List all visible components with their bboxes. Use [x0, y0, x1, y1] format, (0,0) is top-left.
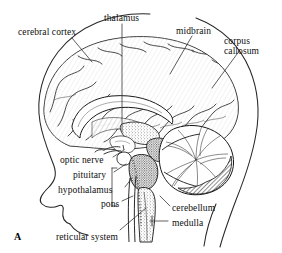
label-cerebellum: cerebellum — [172, 203, 215, 214]
spinal-cord-anterior — [128, 176, 136, 242]
label-pons: pons — [101, 199, 119, 210]
label-optic-nerve: optic nerve — [60, 155, 104, 166]
label-corpus-callosum: corpus callosum — [224, 36, 270, 56]
figure-marker: A — [14, 231, 21, 242]
label-hypothalamus: hypothalamus — [58, 185, 113, 196]
medulla-structure — [138, 188, 155, 243]
leader-hypothalamus — [125, 178, 132, 187]
label-pituitary: pituitary — [73, 170, 106, 181]
label-cerebral-cortex: cerebral cortex — [18, 27, 76, 38]
label-medulla: medulla — [172, 218, 203, 229]
leader-pons — [122, 196, 133, 201]
label-midbrain: midbrain — [176, 26, 211, 37]
pons-structure — [129, 154, 158, 190]
leader-cerebellum — [160, 196, 170, 206]
brain-anatomy-figure: cerebral cortex thalamus midbrain corpus… — [0, 0, 282, 253]
label-reticular-system: reticular system — [56, 232, 118, 243]
label-thalamus: thalamus — [104, 13, 139, 24]
